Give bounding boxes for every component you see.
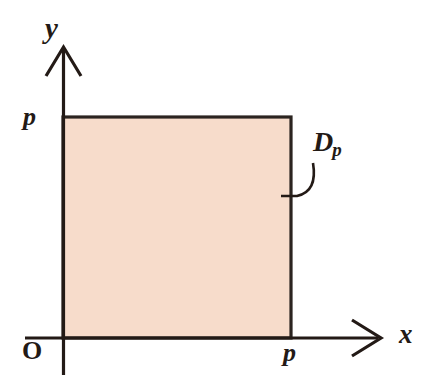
y-axis-label: y <box>45 14 58 43</box>
diagram-canvas <box>0 0 432 386</box>
region-square-dp <box>63 117 291 338</box>
y-tick-label-p: p <box>23 104 36 130</box>
region-label-subscript: p <box>332 139 342 160</box>
origin-label: O <box>22 338 42 364</box>
region-label-base: D <box>313 126 333 157</box>
region-label-dp: Dp <box>313 128 343 156</box>
figure-root: y x p p O Dp <box>0 0 432 386</box>
x-axis-label: x <box>399 321 413 348</box>
x-tick-label-p: p <box>283 340 296 366</box>
